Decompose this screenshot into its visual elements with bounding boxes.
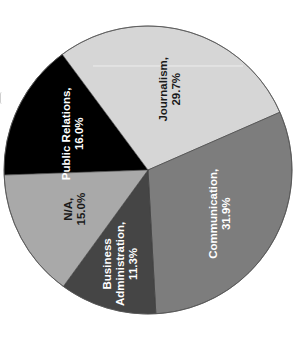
slice-label-n-a: N/A,15.0% (62, 193, 87, 226)
pie-chart: Public Relations,16.0%Journalism,29.7%Co… (0, 0, 294, 343)
pie-slices (4, 26, 292, 314)
